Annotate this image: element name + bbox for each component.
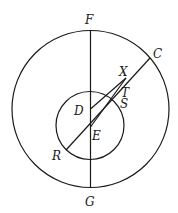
label-r: R [51, 149, 61, 163]
label-g: G [85, 195, 95, 209]
label-c: C [153, 47, 162, 61]
geometry-diagram: F C X T D S E R G [0, 0, 178, 213]
label-e: E [91, 129, 101, 143]
label-d: D [73, 104, 84, 118]
label-s: S [120, 97, 128, 111]
label-x: X [118, 65, 128, 79]
label-f: F [84, 13, 94, 27]
